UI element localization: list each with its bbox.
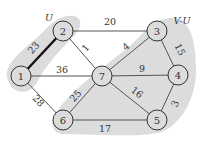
edge-1-7-weight: 36 (56, 64, 68, 75)
node-5-label: 5 (154, 115, 160, 126)
edge-2-3-weight: 20 (104, 16, 116, 27)
node-4-label: 4 (175, 70, 181, 81)
node-3: 3 (147, 21, 167, 41)
edge-7-4-weight: 9 (139, 63, 145, 74)
node-7: 7 (92, 66, 112, 86)
node-6-label: 6 (60, 115, 66, 126)
node-2: 2 (53, 21, 73, 41)
edge-6-5-weight: 17 (99, 123, 111, 134)
node-4: 4 (168, 65, 188, 85)
node-2-label: 2 (60, 26, 66, 37)
graph-diagram: 1 2 3 4 5 6 7 (0, 0, 208, 141)
region-v-minus-u-label: V-U (173, 15, 191, 26)
node-5: 5 (147, 110, 167, 130)
node-3-label: 3 (154, 26, 160, 37)
node-6: 6 (53, 110, 73, 130)
node-1: 1 (11, 66, 31, 86)
node-1-label: 1 (18, 71, 24, 82)
node-7-label: 7 (99, 71, 105, 82)
region-u-label: U (45, 12, 54, 23)
edge-1-6-weight: 28 (30, 92, 46, 108)
